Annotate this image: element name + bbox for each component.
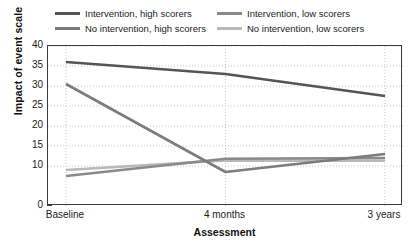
legend-item-intervention-low: Intervention, low scorers [217, 9, 407, 19]
x-tick-label: Baseline [46, 209, 84, 220]
legend-item-no-intervention-high: No intervention, high scorers [55, 24, 217, 34]
plot-area [47, 45, 402, 205]
legend-swatch-icon [217, 12, 242, 15]
legend-swatch-icon [217, 27, 242, 30]
legend-label: No intervention, high scorers [85, 24, 206, 34]
legend-item-intervention-high: Intervention, high scorers [55, 9, 217, 19]
series-line [66, 160, 385, 170]
legend-swatch-icon [55, 27, 80, 30]
x-tick-label: 4 months [204, 209, 245, 220]
x-tick-label: 3 years [368, 209, 401, 220]
plot-lines [48, 46, 403, 206]
chart-legend: Intervention, high scorers Intervention,… [55, 6, 407, 36]
legend-label: Intervention, high scorers [85, 9, 192, 19]
legend-item-no-intervention-low: No intervention, low scorers [217, 24, 407, 34]
chart-figure: Intervention, high scorers Intervention,… [0, 0, 415, 244]
legend-label: Intervention, low scorers [247, 9, 350, 19]
x-axis-tick-labels: Baseline4 months3 years [47, 209, 402, 223]
legend-swatch-icon [55, 12, 80, 15]
x-axis-title: Assessment [47, 226, 402, 238]
legend-label: No intervention, low scorers [247, 24, 364, 34]
